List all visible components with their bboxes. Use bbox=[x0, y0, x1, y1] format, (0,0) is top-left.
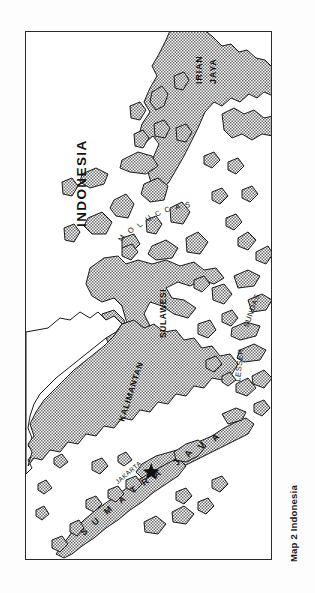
figure-caption-wrapper: Map 2 Indonesia bbox=[278, 470, 290, 570]
map-frame: INDONESIA IRIAN JAYA M O L U C C A S SUL… bbox=[25, 31, 272, 560]
svg-text:S: S bbox=[184, 200, 192, 210]
scanned-page: INDONESIA IRIAN JAYA M O L U C C A S SUL… bbox=[0, 0, 315, 593]
svg-text:O: O bbox=[125, 225, 136, 235]
label-sulawesi: SULAWESI bbox=[158, 289, 168, 338]
svg-text:L: L bbox=[135, 220, 145, 230]
figure-caption: Map 2 Indonesia bbox=[288, 560, 299, 562]
indonesia-map-graphic: INDONESIA IRIAN JAYA M O L U C C A S SUL… bbox=[26, 32, 272, 560]
label-jaya: JAYA bbox=[208, 58, 218, 84]
map-title: INDONESIA bbox=[74, 139, 89, 227]
label-irian: IRIAN bbox=[194, 55, 204, 84]
svg-text:LESSER: LESSER bbox=[233, 348, 245, 382]
island-new-guinea bbox=[138, 32, 272, 192]
